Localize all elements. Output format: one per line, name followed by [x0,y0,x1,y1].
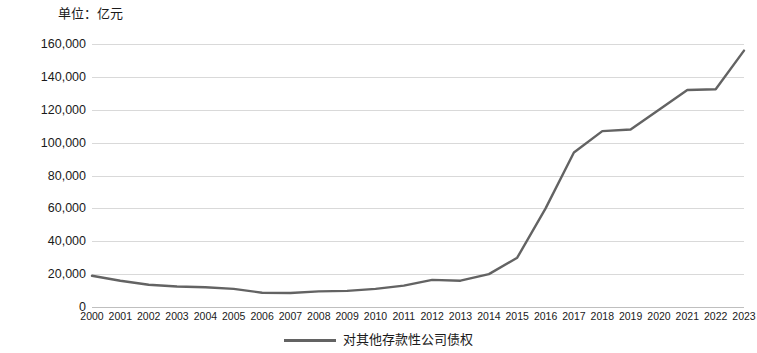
x-axis-tick-label: 2006 [250,309,273,323]
series-plot [92,44,744,307]
x-axis-tick-label: 2021 [676,309,699,323]
x-axis-tick-label: 2023 [732,309,755,323]
y-axis-labels: 020,00040,00060,00080,000100,000120,0001… [0,44,86,307]
y-axis-tick-label: 80,000 [48,169,86,182]
x-axis-tick-label: 2018 [591,309,614,323]
x-axis-tick-label: 2022 [704,309,727,323]
x-axis-tick-label: 2007 [279,309,302,323]
y-axis-tick-label: 120,000 [41,103,86,116]
y-axis-tick-label: 60,000 [48,202,86,215]
x-axis-tick-label: 2015 [506,309,529,323]
legend-label-claims-on-other-depository-corporations: 对其他存款性公司债权 [343,332,473,348]
unit-caption: 单位：亿元 [58,6,123,22]
x-axis-tick-label: 2016 [534,309,557,323]
chart-legend: 对其他存款性公司债权 [0,332,757,348]
x-axis-labels: 2000200120022003200420052006200720082009… [92,309,744,325]
x-axis-tick-label: 2019 [619,309,642,323]
x-axis-tick-label: 2010 [364,309,387,323]
x-axis-tick-label: 2020 [647,309,670,323]
y-axis-tick-label: 20,000 [48,268,86,281]
x-axis-tick-label: 2011 [393,309,416,323]
x-axis-tick-label: 2002 [137,309,160,323]
x-axis-tick-label: 2009 [335,309,358,323]
series-line-claims-on-other-depository-corporations [92,51,744,293]
x-axis-baseline [92,307,744,308]
x-axis-tick-label: 2013 [449,309,472,323]
y-axis-tick-label: 140,000 [41,70,86,83]
x-axis-tick-label: 2014 [477,309,500,323]
x-axis-tick-label: 2012 [421,309,444,323]
y-axis-tick-label: 40,000 [48,235,86,248]
x-axis-tick-label: 2004 [194,309,217,323]
chart-container: 单位：亿元 020,00040,00060,00080,000100,00012… [0,0,757,353]
x-axis-tick-label: 2008 [307,309,330,323]
x-axis-tick-label: 2003 [165,309,188,323]
x-axis-tick-label: 2000 [80,309,103,323]
series-line-swatch [284,339,336,342]
x-axis-tick-label: 2005 [222,309,245,323]
y-axis-tick-label: 100,000 [41,136,86,149]
x-axis-tick-label: 2017 [562,309,585,323]
y-axis-tick-label: 160,000 [41,38,86,51]
plot-area [92,44,744,307]
x-axis-tick-label: 2001 [109,309,132,323]
